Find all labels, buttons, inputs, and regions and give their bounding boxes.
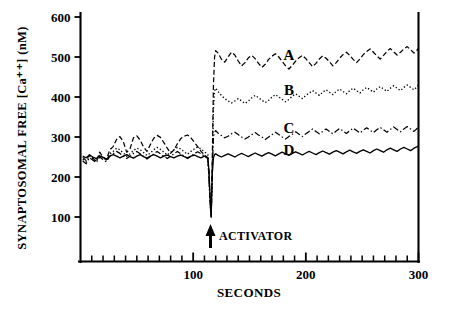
y-ticklabel: 100 <box>51 210 71 225</box>
x-axis-ticks <box>92 253 419 262</box>
trace-a <box>83 47 419 217</box>
trace-d <box>83 146 419 215</box>
x-ticklabel: 100 <box>183 267 203 282</box>
curve-label-d: D <box>284 142 295 158</box>
y-axis-ticklabels: 100200300400500600 <box>51 10 71 225</box>
activator-arrow-icon <box>206 224 216 248</box>
y-ticklabel: 500 <box>51 50 71 65</box>
x-ticklabel: 200 <box>296 267 316 282</box>
x-ticklabel: 300 <box>409 267 429 282</box>
y-axis-title: SYNAPTOSOMAL FREE [Ca⁺⁺] (nM) <box>15 26 29 250</box>
y-ticklabel: 300 <box>51 130 71 145</box>
y-ticklabel: 200 <box>51 170 71 185</box>
data-traces <box>83 47 419 217</box>
chart-canvas: 100200300400500600 100200300 ABCD ACTIVA… <box>0 0 460 316</box>
curve-label-a: A <box>284 47 295 63</box>
curve-labels: ABCD <box>284 47 295 158</box>
curve-label-c: C <box>284 120 295 136</box>
chart-figure: 100200300400500600 100200300 ABCD ACTIVA… <box>0 0 460 316</box>
curve-label-b: B <box>284 82 294 98</box>
activator-label: ACTIVATOR <box>219 229 292 243</box>
x-axis-ticklabels: 100200300 <box>183 267 428 282</box>
y-ticklabel: 600 <box>51 10 71 25</box>
y-ticklabel: 400 <box>51 90 71 105</box>
trace-b <box>83 85 419 217</box>
activator-marker: ACTIVATOR <box>206 224 293 248</box>
x-axis-title: SECONDS <box>217 285 281 300</box>
